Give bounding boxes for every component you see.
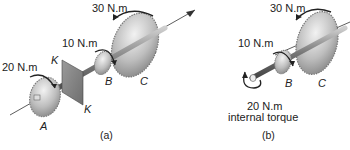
- torque-c-b-label: 30 N.m: [270, 2, 305, 14]
- figure-a-caption: (a): [100, 129, 113, 141]
- torque-b-b-label: 10 N.m: [238, 37, 273, 49]
- internal-torque-label: internal torque: [228, 111, 298, 123]
- gear-b-label: B: [105, 75, 112, 87]
- torque-b-label: 10 N.m: [62, 37, 97, 49]
- gear-b-b-label: B: [285, 77, 292, 89]
- axis-arrow-icon: [186, 10, 195, 17]
- shaft-torque-diagram: 30 N.m 10 N.m 20 N.m K K A B C (a) 30 N.…: [0, 0, 350, 150]
- section-k-bottom-label: K: [84, 103, 91, 115]
- diagram-graphics: [0, 0, 350, 150]
- figure-b-caption: (b): [262, 129, 275, 141]
- torque-a-label: 20 N.m: [2, 61, 37, 73]
- gear-c-b-label: C: [318, 77, 326, 89]
- gear-a: [25, 74, 64, 120]
- gear-c-label: C: [140, 75, 148, 87]
- gear-a-label: A: [40, 120, 47, 132]
- section-plane-k: [62, 60, 83, 105]
- section-k-top-label: K: [51, 54, 58, 66]
- figure-a: [10, 6, 195, 120]
- torque-c-label: 30 N.m: [92, 2, 127, 14]
